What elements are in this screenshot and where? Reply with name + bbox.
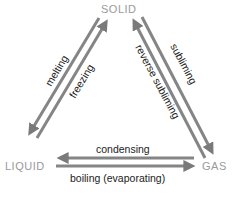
liquid-label: LIQUID [5,160,45,172]
boiling-label: boiling (evaporating) [70,172,165,184]
gas-label: GAS [202,160,227,172]
solid-label: SOLID [101,3,137,15]
condensing-label: condensing [96,143,150,155]
phase-change-diagram: SOLID LIQUID GAS melting freezing revers… [0,0,235,198]
